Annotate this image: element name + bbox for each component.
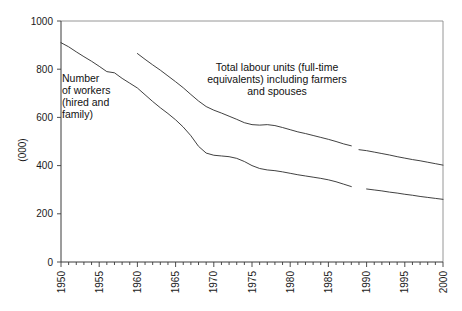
y-tick-label: 600 bbox=[36, 112, 53, 123]
workers-annotation-line: of workers bbox=[62, 84, 110, 96]
y-axis-tick-labels: 02004006008001000 bbox=[31, 16, 54, 268]
x-tick-label: 1980 bbox=[285, 271, 296, 294]
x-tick-label: 1975 bbox=[247, 271, 258, 294]
labour-units-annotation-line: Total labour units (full-time bbox=[216, 61, 339, 73]
labour-units-annotation: Total labour units (full-timeequivalents… bbox=[207, 61, 346, 97]
x-axis-major-ticks bbox=[61, 262, 443, 267]
chart-container: 02004006008001000 1950195519601965197019… bbox=[0, 0, 462, 311]
y-tick-label: 800 bbox=[36, 64, 53, 75]
x-axis-tick-labels: 1950195519601965197019751980198519901995… bbox=[56, 271, 449, 294]
y-axis-ticks bbox=[57, 21, 61, 262]
x-tick-label: 2000 bbox=[438, 271, 449, 294]
x-tick-label: 1995 bbox=[399, 271, 410, 294]
series-line bbox=[359, 150, 443, 165]
workers-annotation-line: Number bbox=[62, 72, 100, 84]
x-tick-label: 1985 bbox=[323, 271, 334, 294]
y-tick-label: 200 bbox=[36, 208, 53, 219]
workers-annotation-line: (hired and bbox=[62, 96, 109, 108]
x-tick-label: 1960 bbox=[132, 271, 143, 294]
y-tick-label: 1000 bbox=[31, 16, 54, 27]
y-tick-label: 0 bbox=[47, 257, 53, 268]
series-line bbox=[367, 189, 443, 199]
x-tick-label: 1970 bbox=[208, 271, 219, 294]
workers-annotation-line: family) bbox=[62, 108, 93, 120]
labour-units-annotation-line: equivalents) including farmers bbox=[207, 73, 346, 85]
x-tick-label: 1990 bbox=[361, 271, 372, 294]
x-tick-label: 1950 bbox=[56, 271, 67, 294]
labour-units-annotation-line: and spouses bbox=[247, 85, 307, 97]
x-tick-label: 1955 bbox=[94, 271, 105, 294]
x-tick-label: 1965 bbox=[170, 271, 181, 294]
chart-svg: 02004006008001000 1950195519601965197019… bbox=[0, 0, 462, 311]
y-tick-label: 400 bbox=[36, 160, 53, 171]
workers-annotation: Numberof workers(hired andfamily) bbox=[62, 72, 110, 120]
y-axis-title: (000) bbox=[17, 138, 28, 161]
